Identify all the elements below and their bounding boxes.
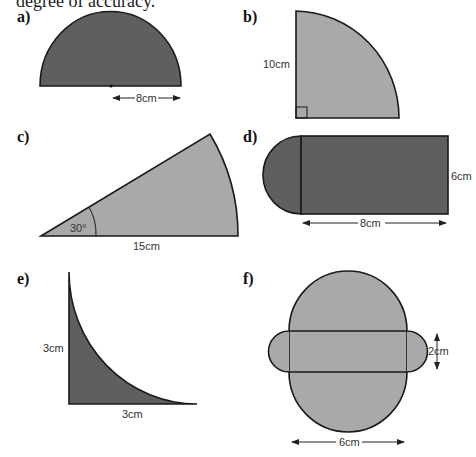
figure-b-quarter-circle: 10cm	[263, 11, 399, 118]
figure-d-width: 8cm	[360, 217, 381, 229]
figure-f-composite: 2cm 6cm	[269, 271, 449, 448]
figure-e-height: 3cm	[43, 342, 64, 354]
figure-f-width: 6cm	[339, 436, 360, 448]
figure-d-height: 6cm	[451, 170, 472, 182]
figure-c-angle: 30°	[70, 222, 87, 234]
figure-c-radius: 15cm	[133, 240, 160, 252]
figure-b-dimension: 10cm	[263, 58, 290, 70]
figure-a-semicircle: 8cm	[40, 11, 181, 104]
figure-f-strip-height: 2cm	[428, 345, 449, 357]
figure-c-sector: 30° 15cm	[41, 134, 238, 252]
figure-e-width: 3cm	[122, 408, 143, 420]
figure-a-dimension: 8cm	[136, 92, 157, 104]
figure-e-shape: 3cm 3cm	[43, 272, 197, 420]
figure-d-composite: 6cm 8cm	[263, 136, 472, 229]
figures-canvas: 8cm 10cm 30° 15cm 6cm 8cm 3cm 3cm 2cm	[0, 0, 476, 457]
